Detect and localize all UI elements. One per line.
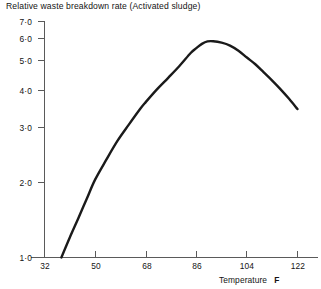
y-tick-label-4: 4·0 <box>6 86 32 96</box>
data-curve-relative-waste-breakdown-rate <box>61 41 297 257</box>
x-axis-ticks <box>45 251 298 258</box>
y-tick-label-7: 7·0 <box>6 17 32 27</box>
y-tick-label-1: 1·0 <box>6 253 32 263</box>
x-axis-title-text: Temperature <box>219 275 267 285</box>
x-axis-unit-label: F <box>274 275 279 285</box>
axis-lines <box>31 21 318 258</box>
y-tick-label-5: 5·0 <box>6 56 32 66</box>
x-axis-title: TemperatureF <box>219 275 279 285</box>
chart-figure: Relative waste breakdown rate (Activated… <box>0 0 321 289</box>
chart-plot-area <box>0 0 321 289</box>
x-tick-label-32: 32 <box>30 261 60 271</box>
x-tick-label-122: 122 <box>283 261 313 271</box>
x-tick-label-86: 86 <box>182 261 212 271</box>
x-tick-label-104: 104 <box>232 261 262 271</box>
y-tick-label-2: 2·0 <box>6 178 32 188</box>
y-tick-label-6: 6·0 <box>6 34 32 44</box>
x-tick-label-50: 50 <box>81 261 111 271</box>
y-axis-ticks <box>38 22 45 183</box>
y-tick-label-3: 3·0 <box>6 123 32 133</box>
x-tick-label-68: 68 <box>132 261 162 271</box>
